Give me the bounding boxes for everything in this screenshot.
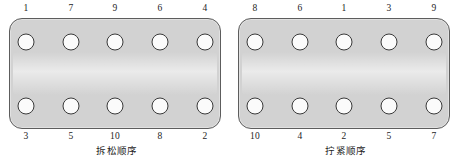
bolt-number-label: 1 [342,3,347,14]
bolt-number-label: 10 [110,131,120,142]
bolt-number-label: 7 [432,131,437,142]
bolt-hole [381,34,398,51]
bolt-number-label: 10 [250,131,260,142]
bolt-hole [292,98,309,115]
bolt-number-label: 3 [387,3,392,14]
bolt-hole [107,98,124,115]
bolt-hole [336,98,353,115]
bolt-sequence-figure: 1 7 9 6 4 3 5 10 8 2 拆松顺序 8 6 1 3 9 10 [0,0,458,165]
bolt-number-label: 3 [24,131,29,142]
bolt-number-label: 8 [253,3,258,14]
bolt-number-label: 5 [69,131,74,142]
bolt-number-label: 2 [342,131,347,142]
bolt-hole [107,34,124,51]
bolt-number-label: 9 [432,3,437,14]
panel-loosening-sequence: 1 7 9 6 4 3 5 10 8 2 拆松顺序 [0,0,229,165]
bolt-number-label: 9 [113,3,118,14]
bolt-hole [336,34,353,51]
bolt-number-label: 8 [158,131,163,142]
bolt-hole [247,98,264,115]
bolt-hole [197,34,214,51]
panel-caption: 拆松顺序 [96,145,138,158]
bolt-hole [63,34,80,51]
bolt-hole [18,98,35,115]
bolt-hole [152,98,169,115]
panel-caption: 拧紧顺序 [325,145,367,158]
bolt-number-label: 7 [69,3,74,14]
bolt-number-label: 6 [298,3,303,14]
bolt-hole [247,34,264,51]
bolt-number-label: 5 [387,131,392,142]
bolt-hole [197,98,214,115]
bolt-number-label: 4 [298,131,303,142]
panel-tightening-sequence: 8 6 1 3 9 10 4 2 5 7 拧紧顺序 [229,0,458,165]
bolt-number-label: 6 [158,3,163,14]
bolt-hole [292,34,309,51]
bolt-number-label: 2 [203,131,208,142]
bolt-hole [426,34,443,51]
bolt-hole [18,34,35,51]
bolt-number-label: 1 [24,3,29,14]
bolt-hole [426,98,443,115]
bolt-hole [63,98,80,115]
bolt-hole [152,34,169,51]
bolt-number-label: 4 [203,3,208,14]
bolt-hole [381,98,398,115]
